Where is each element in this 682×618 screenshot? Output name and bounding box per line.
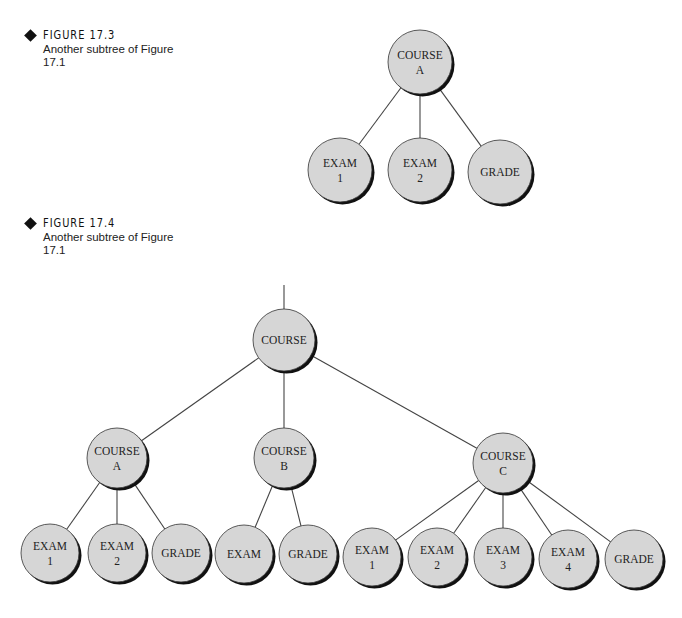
node-label: EXAM <box>355 544 389 556</box>
tree-node-c_exam3: EXAM3 <box>474 528 535 589</box>
node-label: GRADE <box>480 166 520 178</box>
tree-edge <box>439 88 481 146</box>
node-label: COURSE <box>397 49 442 61</box>
node-label: GRADE <box>161 547 201 559</box>
node-label: EXAM <box>403 157 437 169</box>
tree-node-courseB: COURSEB <box>254 428 317 491</box>
tree-node-c_exam2: EXAM2 <box>408 528 469 589</box>
node-circle <box>254 428 314 488</box>
node-label: 1 <box>337 172 343 184</box>
tree-node-b_grade: GRADE <box>279 525 340 586</box>
tree-edge <box>142 358 259 441</box>
node-label: COURSE <box>480 450 525 462</box>
tree-edge <box>134 483 165 529</box>
node-label: 2 <box>114 555 120 567</box>
tree-node-courseC: COURSEC <box>473 433 536 496</box>
node-label: EXAM <box>100 540 134 552</box>
tree-diagrams: COURSEAEXAM1EXAM2GRADE COURSECOURSEACOUR… <box>0 0 682 618</box>
node-label: EXAM <box>323 157 357 169</box>
node-label: B <box>280 460 288 472</box>
tree-node-courseA: COURSEA <box>388 30 455 97</box>
figure-17-4-tree: COURSECOURSEACOURSEBCOURSECEXAM1EXAM2GRA… <box>21 285 666 591</box>
tree-node-a_exam1: EXAM1 <box>21 524 82 585</box>
node-label: GRADE <box>288 548 328 560</box>
node-label: EXAM <box>420 544 454 556</box>
node-circle <box>474 528 532 586</box>
tree-node-c_exam1: EXAM1 <box>343 528 404 589</box>
tree-edge <box>255 486 272 528</box>
node-label: 4 <box>565 561 571 573</box>
node-label: 1 <box>369 559 375 571</box>
tree-edge <box>67 483 100 530</box>
tree-node-b_exam: EXAM <box>215 525 276 586</box>
node-label: EXAM <box>227 548 261 560</box>
tree-edge <box>311 355 477 448</box>
node-label: EXAM <box>33 540 67 552</box>
tree-node-c_grade: GRADE <box>605 530 666 591</box>
tree-node-a_grade: GRADE <box>152 524 213 585</box>
node-circle <box>308 138 372 202</box>
tree-node-exam2: EXAM2 <box>388 138 455 205</box>
tree-node-grade: GRADE <box>468 140 535 207</box>
figure-17-3-tree: COURSEAEXAM1EXAM2GRADE <box>308 30 535 207</box>
node-label: COURSE <box>94 445 139 457</box>
node-circle <box>408 528 466 586</box>
tree-edge <box>359 88 401 145</box>
node-circle <box>21 524 79 582</box>
node-label: EXAM <box>486 544 520 556</box>
node-label: C <box>499 465 507 477</box>
node-label: COURSE <box>261 445 306 457</box>
node-label: 1 <box>47 555 53 567</box>
node-circle <box>473 433 533 493</box>
tree-node-courseA: COURSEA <box>87 428 150 491</box>
node-label: COURSE <box>261 334 306 346</box>
node-circle <box>388 138 452 202</box>
node-circle <box>388 30 452 94</box>
tree-edge <box>291 487 301 526</box>
node-circle <box>87 428 147 488</box>
node-label: EXAM <box>551 546 585 558</box>
node-label: 2 <box>417 172 423 184</box>
node-label: GRADE <box>614 553 654 565</box>
tree-node-c_exam4: EXAM4 <box>539 530 600 591</box>
node-circle <box>539 530 597 588</box>
node-label: A <box>113 460 122 472</box>
node-circle <box>343 528 401 586</box>
tree-node-course: COURSE <box>253 309 318 374</box>
node-circle <box>88 524 146 582</box>
node-label: A <box>416 64 425 76</box>
tree-node-a_exam2: EXAM2 <box>88 524 149 585</box>
node-label: 2 <box>434 559 440 571</box>
tree-node-exam1: EXAM1 <box>308 138 375 205</box>
node-label: 3 <box>500 559 506 571</box>
